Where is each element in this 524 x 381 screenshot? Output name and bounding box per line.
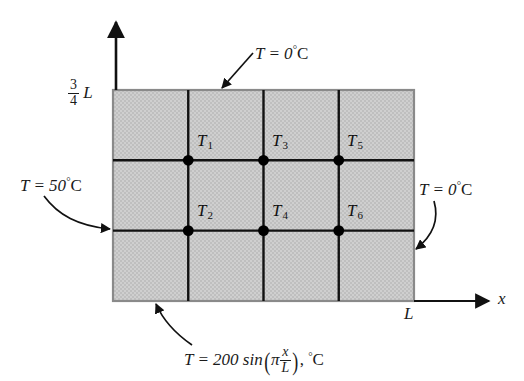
boundary-label-left: T = 50°C [20,176,82,194]
pi-symbol: π [271,350,280,369]
three-quarters-fraction: 3 4 [68,78,79,108]
node-marker-T5 [333,155,344,166]
fraction-denominator: 4 [68,93,79,109]
node-label-T6: T6 [347,201,363,221]
comma-separator: , [300,350,304,369]
unit-top: C [297,44,308,63]
paren-close: ) [293,349,299,374]
y-axis-length-symbol: L [83,83,92,102]
node-marker-T2 [183,225,194,236]
leader-left [44,196,110,229]
node-label-T4-subscript: 4 [281,209,288,221]
boundary-label-right: T = 0°C [419,180,472,198]
boundary-label-bottom-prefix: T = 200 sin [184,350,263,369]
y-axis-extent-label: 3 4 L [68,78,93,108]
boundary-label-top: T = 0°C [255,44,308,62]
node-marker-T1 [183,155,194,166]
unit-right: C [461,180,472,199]
node-label-T6-subscript: 6 [356,209,363,221]
sine-fraction-denominator: L [280,360,292,376]
x-axis-label: x [498,290,506,307]
boundary-label-right-text: T = 0 [419,180,457,199]
node-marker-T3 [258,155,269,166]
x-over-L-fraction: xL [280,345,292,375]
fraction-numerator: 3 [68,78,79,93]
unit-bottom: C [313,350,324,369]
boundary-label-bottom: T = 200 sin(πxL), °C [184,345,324,375]
node-label-T3-subscript: 3 [281,139,288,151]
heat-conduction-figure: 3 4 L x L T = 0°C T = 50°C T = 0°C T = 2… [0,0,524,381]
boundary-label-top-text: T = 0 [255,44,293,63]
node-marker-T4 [258,225,269,236]
boundary-label-left-text: T = 50 [20,176,66,195]
paren-open: ( [264,349,270,374]
node-label-T1: T1 [197,131,213,151]
x-axis-extent-label: L [404,305,413,322]
unit-left: C [71,176,82,195]
node-label-T1-subscript: 1 [206,139,213,151]
node-label-T4: T4 [272,201,288,221]
node-marker-T6 [333,225,344,236]
leader-top [222,53,253,88]
node-label-T2-subscript: 2 [206,209,213,221]
node-label-T5: T5 [347,131,363,151]
sine-fraction-numerator: x [280,345,292,360]
leader-bottom [156,304,192,345]
node-label-T2: T2 [197,201,213,221]
node-label-T3: T3 [272,131,288,151]
leader-right [416,201,436,249]
node-label-T5-subscript: 5 [356,139,363,151]
